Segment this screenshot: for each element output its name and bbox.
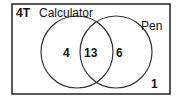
- outside-count: 1: [151, 78, 158, 90]
- calculator-label: Calculator: [39, 7, 93, 19]
- intersection-count: 13: [84, 47, 97, 59]
- calculator-only-count: 4: [63, 47, 70, 59]
- calculator-circle: [41, 16, 113, 88]
- class-label: 4T: [16, 7, 30, 19]
- pen-label: Pen: [141, 20, 162, 32]
- pen-only-count: 6: [116, 47, 123, 59]
